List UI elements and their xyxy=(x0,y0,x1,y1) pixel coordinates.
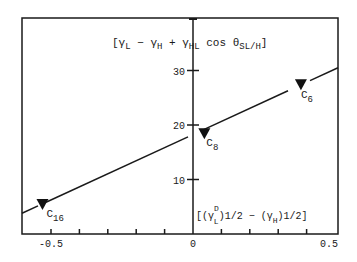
point-label: C8 xyxy=(206,137,218,153)
fit-line xyxy=(22,68,338,214)
x-axis-label: [(γDL)1/2 − (γH)1/2] xyxy=(196,204,308,226)
x-tick-label: 0 xyxy=(190,239,196,250)
point-label: C16 xyxy=(46,208,63,224)
y-tick-label: 20 xyxy=(173,121,185,132)
chart: 102030 -0.500.5 C16C8C6 [γL − γH + γHL c… xyxy=(0,0,357,262)
x-tick-label: 0.5 xyxy=(320,239,338,250)
y-ticks: 102030 xyxy=(173,67,199,187)
point-label: C6 xyxy=(301,89,313,105)
data-points: C16C8C6 xyxy=(36,79,312,224)
y-tick-label: 30 xyxy=(173,67,185,78)
y-tick-label: 10 xyxy=(173,176,185,187)
x-tick-label: -0.5 xyxy=(39,239,63,250)
y-axis-label: [γL − γH + γHL cos θSL/H] xyxy=(112,37,267,52)
x-ticks: -0.500.5 xyxy=(39,229,338,250)
